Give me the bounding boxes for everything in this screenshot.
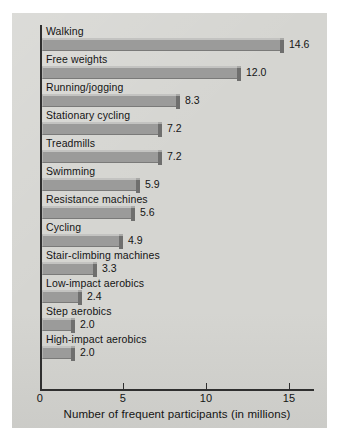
bar-row: Stationary cycling7.2: [42, 109, 314, 137]
bar-end-cap: [93, 262, 97, 277]
x-axis-tick-label: 15: [283, 392, 296, 404]
bar[interactable]: [42, 122, 162, 135]
bar-row: Treadmills7.2: [42, 137, 314, 165]
x-axis-tick-label: 0: [37, 392, 43, 404]
bar-end-cap: [71, 346, 75, 361]
x-axis-tick: [123, 383, 124, 390]
bar-row: Swimming5.9: [42, 165, 314, 193]
bar-category-label: Resistance machines: [46, 193, 148, 206]
x-axis-tick: [289, 383, 290, 390]
bar-end-cap: [176, 94, 180, 109]
bar-value-label: 2.4: [87, 289, 102, 303]
bar-wrapper: [42, 318, 75, 331]
bar-end-cap: [71, 318, 75, 333]
bar-value-label: 2.0: [80, 317, 95, 331]
bar-value-label: 12.0: [246, 65, 266, 79]
bar-end-cap: [131, 206, 135, 221]
bar-row: Low-impact aerobics2.4: [42, 277, 314, 305]
x-axis-tick-label: 10: [200, 392, 213, 404]
bar-value-label: 8.3: [185, 93, 200, 107]
bar[interactable]: [42, 206, 135, 219]
bar-wrapper: [42, 206, 135, 219]
bar-row: Walking14.6: [42, 25, 314, 53]
bar-row: Resistance machines5.6: [42, 193, 314, 221]
bar-wrapper: [42, 38, 284, 51]
bar-end-cap: [158, 122, 162, 137]
bar-end-cap: [78, 290, 82, 305]
bar-value-label: 5.9: [145, 177, 160, 191]
bar-category-label: Walking: [46, 25, 84, 38]
bar-value-label: 2.0: [80, 345, 95, 359]
bar-wrapper: [42, 66, 241, 79]
bar-wrapper: [42, 234, 123, 247]
bar-row: Stair-climbing machines3.3: [42, 249, 314, 277]
x-axis-tick: [206, 383, 207, 390]
bar-category-label: Running/jogging: [46, 81, 123, 94]
bar-category-label: Treadmills: [46, 137, 95, 150]
bar-wrapper: [42, 178, 140, 191]
bar-value-label: 5.6: [140, 205, 155, 219]
bar-row: Step aerobics2.0: [42, 305, 314, 333]
bar-end-cap: [136, 178, 140, 193]
bar-category-label: Swimming: [46, 165, 95, 178]
bar[interactable]: [42, 66, 241, 79]
bar-value-label: 7.2: [167, 149, 182, 163]
bar[interactable]: [42, 290, 82, 303]
bar-end-cap: [280, 38, 284, 53]
bar[interactable]: [42, 234, 123, 247]
bar-value-label: 14.6: [289, 37, 309, 51]
bar[interactable]: [42, 38, 284, 51]
bar-value-label: 4.9: [128, 233, 143, 247]
bar[interactable]: [42, 94, 180, 107]
x-axis-tick: [40, 383, 41, 390]
bar-row: Running/jogging8.3: [42, 81, 314, 109]
x-axis-tick-label: 5: [120, 392, 126, 404]
bar-wrapper: [42, 346, 75, 359]
bar-wrapper: [42, 94, 180, 107]
bar-end-cap: [237, 66, 241, 81]
bar-wrapper: [42, 262, 97, 275]
bar-wrapper: [42, 290, 82, 303]
bar-category-label: Free weights: [46, 53, 107, 66]
bar-end-cap: [158, 150, 162, 165]
bar-category-label: Cycling: [46, 221, 81, 234]
bar[interactable]: [42, 178, 140, 191]
bar-row: High-impact aerobics2.0: [42, 333, 314, 361]
bar[interactable]: [42, 262, 97, 275]
bar[interactable]: [42, 150, 162, 163]
bar-end-cap: [119, 234, 123, 249]
bar-rows: Walking14.6Free weights12.0Running/joggi…: [42, 25, 314, 361]
bar-category-label: Stationary cycling: [46, 109, 130, 122]
x-axis-title: Number of frequent participants (in mill…: [40, 408, 314, 420]
bar-category-label: High-impact aerobics: [46, 333, 147, 346]
bar-chart-figure: 051015 Number of frequent participants (…: [0, 0, 339, 442]
bar-row: Free weights12.0: [42, 53, 314, 81]
bar-row: Cycling4.9: [42, 221, 314, 249]
bar-wrapper: [42, 122, 162, 135]
x-axis-line: [40, 389, 314, 391]
bar-value-label: 3.3: [102, 261, 117, 275]
bar-value-label: 7.2: [167, 121, 182, 135]
bar-category-label: Step aerobics: [46, 305, 112, 318]
bar-wrapper: [42, 150, 162, 163]
